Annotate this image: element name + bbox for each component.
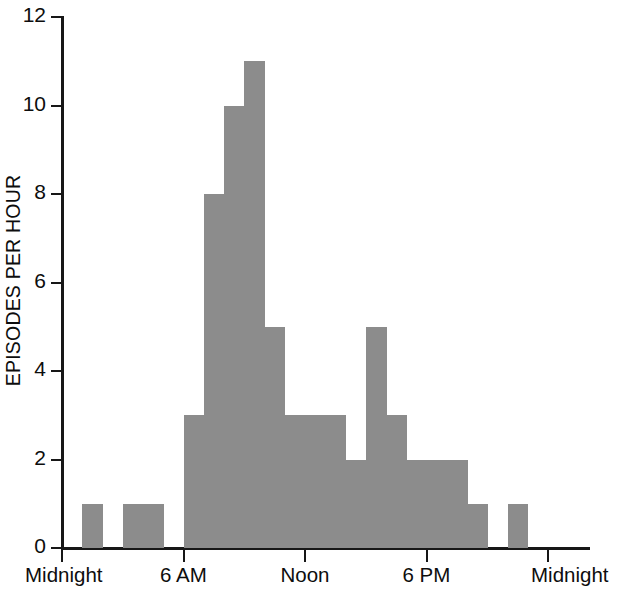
y-axis-tick (51, 370, 62, 372)
y-axis-tick-label: 10 (0, 92, 46, 116)
histogram-bar (346, 460, 367, 549)
histogram-bar (325, 415, 346, 548)
histogram-bar (447, 460, 468, 549)
histogram-bar (82, 504, 103, 548)
x-axis-tick (547, 549, 549, 562)
x-axis-tick-label: Midnight (531, 563, 609, 587)
y-axis-tick (51, 16, 62, 18)
histogram-bar (244, 61, 265, 548)
y-axis-tick (51, 282, 62, 284)
y-axis-tick-label: 12 (0, 3, 46, 27)
x-axis-tick (183, 549, 185, 562)
histogram-bar (265, 327, 286, 548)
x-axis-tick (61, 549, 63, 562)
histogram-bar (123, 504, 144, 548)
histogram-bar (427, 460, 448, 549)
histogram-bar (285, 415, 306, 548)
histogram-bar (204, 194, 225, 548)
x-axis-tick-label: 6 AM (160, 563, 207, 587)
histogram-bar (224, 106, 245, 549)
histogram-bar (184, 415, 205, 548)
x-axis-tick (304, 549, 306, 562)
x-axis-tick-label: Midnight (25, 563, 103, 587)
histogram-bar (467, 504, 488, 548)
y-axis-tick-label: 0 (0, 534, 46, 558)
x-axis-tick (426, 549, 428, 562)
y-axis-tick-label: 4 (0, 357, 46, 381)
histogram-bar (366, 327, 387, 548)
y-axis-tick (51, 105, 62, 107)
histogram-bar (406, 460, 427, 549)
y-axis-tick-label: 6 (0, 269, 46, 293)
y-axis-tick-label: 8 (0, 180, 46, 204)
histogram-bar (508, 504, 529, 548)
histogram-bar (386, 415, 407, 548)
histogram-bar (305, 415, 326, 548)
x-axis-tick-label: 6 PM (403, 563, 451, 587)
y-axis-tick (51, 459, 62, 461)
bars-layer (62, 17, 548, 548)
y-axis-tick-label: 2 (0, 446, 46, 470)
x-axis-tick-label: Noon (281, 563, 330, 587)
histogram-bar (143, 504, 164, 548)
y-axis-tick (51, 193, 62, 195)
histogram-chart: EPISODES PER HOUR 024681012 Midnight6 AM… (0, 0, 630, 594)
